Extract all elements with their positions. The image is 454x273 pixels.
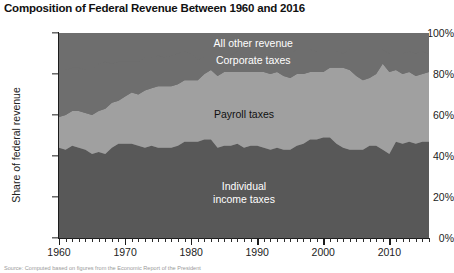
x-tick-minor xyxy=(218,238,219,242)
x-tick-minor xyxy=(297,238,298,242)
x-tick-minor xyxy=(145,238,146,242)
x-tick-minor xyxy=(92,238,93,242)
series-label-individual-income-taxes: Individualincome taxes xyxy=(213,180,275,206)
series-label-corporate-taxes: Corporate taxes xyxy=(216,54,291,67)
x-tick-minor xyxy=(112,238,113,242)
x-tick-minor xyxy=(270,238,271,242)
x-tick-minor xyxy=(317,238,318,242)
x-tick-minor xyxy=(337,238,338,242)
x-tick-label: 2010 xyxy=(378,246,401,258)
x-tick-minor xyxy=(376,238,377,242)
x-tick-minor xyxy=(99,238,100,242)
source-note: Source: Computed based on figures from t… xyxy=(4,265,201,271)
x-tick-minor xyxy=(158,238,159,242)
x-tick-label: 1960 xyxy=(47,246,70,258)
chart-title: Composition of Federal Revenue Between 1… xyxy=(4,2,305,14)
x-tick-minor xyxy=(383,238,384,242)
x-tick-major xyxy=(323,238,324,245)
x-tick-minor xyxy=(403,238,404,242)
x-tick-label: 1970 xyxy=(113,246,136,258)
x-tick-minor xyxy=(66,238,67,242)
x-tick-major xyxy=(257,238,258,245)
x-tick-minor xyxy=(370,238,371,242)
x-tick-label: 1990 xyxy=(246,246,269,258)
x-tick-minor xyxy=(185,238,186,242)
x-tick-label: 1980 xyxy=(179,246,202,258)
x-tick-minor xyxy=(152,238,153,242)
x-tick-minor xyxy=(277,238,278,242)
y-axis-title: Share of federal revenue xyxy=(10,87,22,203)
x-tick-minor xyxy=(211,238,212,242)
series-label-all-other-revenue: All other revenue xyxy=(214,38,293,51)
x-tick-label: 2000 xyxy=(312,246,335,258)
x-tick-minor xyxy=(264,238,265,242)
x-tick-minor xyxy=(198,238,199,242)
x-tick-minor xyxy=(290,238,291,242)
chart-container: Composition of Federal Revenue Between 1… xyxy=(0,0,454,273)
x-tick-minor xyxy=(244,238,245,242)
x-tick-minor xyxy=(356,238,357,242)
x-tick-major xyxy=(389,238,390,245)
x-tick-minor xyxy=(72,238,73,242)
x-tick-minor xyxy=(303,238,304,242)
x-tick-minor xyxy=(343,238,344,242)
x-tick-minor xyxy=(132,238,133,242)
x-tick-minor xyxy=(85,238,86,242)
x-tick-minor xyxy=(224,238,225,242)
x-tick-major xyxy=(191,238,192,245)
x-tick-minor xyxy=(118,238,119,242)
x-tick-minor xyxy=(178,238,179,242)
x-tick-minor xyxy=(409,238,410,242)
x-tick-minor xyxy=(171,238,172,242)
x-tick-minor xyxy=(79,238,80,242)
x-tick-minor xyxy=(204,238,205,242)
x-tick-minor xyxy=(416,238,417,242)
x-tick-minor xyxy=(422,238,423,242)
x-tick-minor xyxy=(165,238,166,242)
x-tick-minor xyxy=(330,238,331,242)
x-tick-minor xyxy=(138,238,139,242)
series-label-payroll-taxes: Payroll taxes xyxy=(214,108,274,121)
x-tick-minor xyxy=(350,238,351,242)
x-tick-minor xyxy=(396,238,397,242)
x-tick-minor xyxy=(231,238,232,242)
x-tick-major xyxy=(59,238,60,245)
x-tick-minor xyxy=(363,238,364,242)
x-tick-minor xyxy=(105,238,106,242)
x-tick-minor xyxy=(284,238,285,242)
x-tick-major xyxy=(125,238,126,245)
x-tick-minor xyxy=(237,238,238,242)
x-tick-minor xyxy=(251,238,252,242)
x-tick-minor xyxy=(429,238,430,242)
x-tick-minor xyxy=(310,238,311,242)
